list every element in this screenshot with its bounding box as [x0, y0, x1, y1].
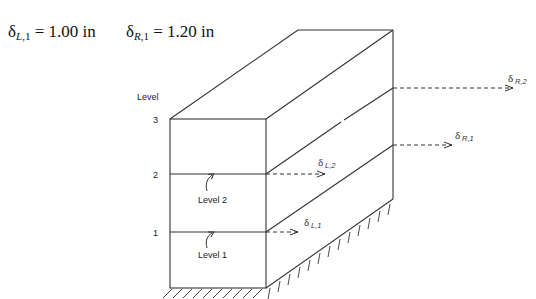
svg-text:L,2: L,2: [325, 161, 336, 170]
pointer-arrow-level-1: [206, 233, 212, 248]
level-tick-2: 2: [153, 170, 158, 180]
label-delta-l2: δ L,2: [318, 156, 336, 170]
svg-text:δ: δ: [455, 129, 460, 141]
floor-label-level-2: Level 2: [198, 195, 227, 205]
svg-text:R,2: R,2: [515, 77, 528, 86]
label-delta-r2: δ R,2: [508, 72, 528, 86]
pointer-arrow-level-2: [206, 175, 212, 191]
svg-text:L,1: L,1: [311, 221, 321, 230]
level-tick-3: 3: [153, 115, 158, 125]
svg-text:R,1: R,1: [462, 134, 474, 143]
top-left-edge: [170, 30, 298, 119]
side-diagonal-base: [266, 199, 393, 288]
side-diagonal-level-2b: [344, 88, 393, 120]
label-delta-r1: δ R,1: [455, 129, 474, 143]
svg-text:δ: δ: [318, 156, 323, 168]
side-diagonal-level-1: [266, 145, 393, 232]
svg-text:δ: δ: [508, 72, 513, 84]
svg-text:δ: δ: [304, 216, 309, 228]
label-delta-l1: δ L,1: [304, 216, 321, 230]
level-tick-1: 1: [153, 228, 158, 238]
floor-label-level-1: Level 1: [198, 250, 227, 260]
level-axis-title: Level: [137, 92, 159, 102]
building-diagram: Level 3 2 1 Level 2 Level 1 δ R,2 δ R,1 …: [0, 0, 536, 299]
top-right-edge: [266, 30, 393, 119]
